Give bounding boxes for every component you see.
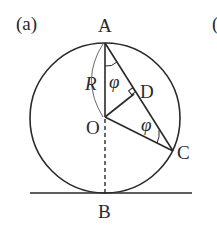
label-R: R [84, 73, 97, 94]
angle-arc-A [105, 62, 117, 66]
circle-geometry-diagram: (a) ( A B O C D R φ φ [0, 0, 217, 227]
panel-label: (a) [16, 13, 37, 35]
label-A: A [98, 15, 112, 36]
label-C: C [177, 142, 190, 163]
segment-OD [105, 94, 134, 117]
label-D: D [140, 81, 154, 102]
angle-label-phi-C: φ [141, 114, 152, 135]
label-B: B [98, 201, 111, 222]
next-panel-partial: ( [212, 13, 217, 35]
angle-arc-C [157, 130, 159, 143]
label-O: O [86, 117, 100, 138]
angle-label-phi-A: φ [109, 71, 120, 92]
